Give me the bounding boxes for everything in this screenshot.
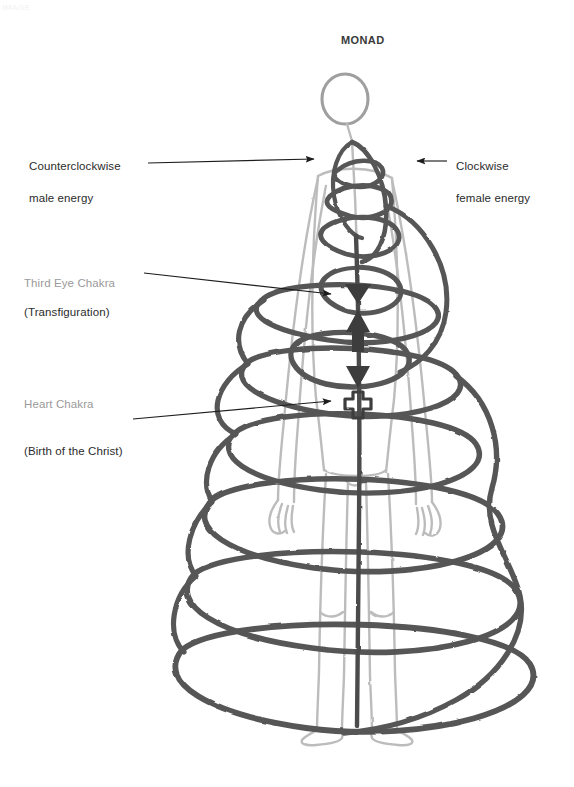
spiral-figure-artwork bbox=[0, 0, 574, 787]
third-eye-triangle-down-icon bbox=[345, 284, 371, 304]
energy-spiral bbox=[174, 142, 534, 733]
figure-head bbox=[322, 74, 368, 124]
label-clockwise-line2: female energy bbox=[456, 191, 530, 205]
figure-neck bbox=[347, 124, 352, 141]
figure-hand-left bbox=[269, 500, 294, 533]
third-eye-arrow bbox=[144, 273, 331, 294]
label-counterclockwise-line1: Counterclockwise bbox=[29, 159, 121, 173]
counterclockwise-arrow bbox=[148, 159, 314, 163]
figure-leg-right-inner bbox=[366, 482, 372, 730]
figure-leg-left-inner bbox=[342, 482, 348, 730]
page-title: MONAD bbox=[341, 33, 385, 47]
figure-hand-right bbox=[416, 502, 441, 535]
diagram-page: IMAGE bbox=[0, 0, 574, 787]
label-birth-of-the-christ: (Birth of the Christ) bbox=[24, 444, 123, 458]
figure-leg-left-outer bbox=[317, 474, 326, 730]
figure-knee-left bbox=[320, 612, 343, 617]
label-counterclockwise-line2: male energy bbox=[29, 191, 93, 205]
spiral-turn-10 bbox=[175, 624, 533, 731]
label-clockwise-line1: Clockwise bbox=[456, 159, 509, 173]
figure-hips bbox=[324, 470, 386, 476]
label-heart-chakra: Heart Chakra bbox=[24, 397, 94, 411]
label-third-eye-chakra: Third Eye Chakra bbox=[24, 276, 115, 290]
label-transfiguration: (Transfiguration) bbox=[24, 305, 110, 319]
figure-leg-right-outer bbox=[388, 474, 397, 730]
figure-torso-left bbox=[312, 176, 324, 470]
figure-knee-right bbox=[371, 612, 394, 617]
